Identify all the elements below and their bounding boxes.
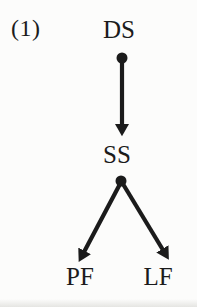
node-lf: LF [143, 264, 172, 289]
tree-diagram-figure: (1) DS SS PF LF [0, 0, 197, 307]
node-pf: PF [66, 264, 94, 289]
edge-ss-pf-arrow [84, 184, 120, 252]
diagram-edges-canvas [0, 0, 197, 307]
node-ds: DS [103, 17, 135, 42]
node-ss: SS [103, 142, 131, 167]
edge-ss-lf-arrow [123, 184, 163, 250]
